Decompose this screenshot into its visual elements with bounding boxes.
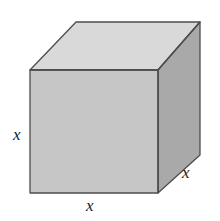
edge-label-width: x — [86, 197, 94, 214]
edge-label-depth: x — [182, 164, 190, 181]
cube-figure: x x x — [0, 0, 220, 221]
cube-illustration — [0, 0, 220, 221]
cube-front-face — [30, 70, 158, 193]
edge-label-height: x — [13, 126, 21, 143]
